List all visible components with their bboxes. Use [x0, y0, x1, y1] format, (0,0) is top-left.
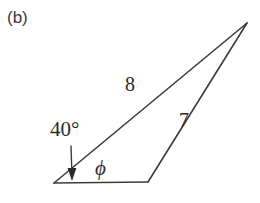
- angle-label-40-degrees: 40°: [50, 119, 79, 140]
- triangle-side-7-line: [148, 23, 247, 182]
- angle-arrow-head-icon: [68, 168, 77, 181]
- triangle-base-line: [54, 182, 148, 183]
- triangle-diagram: [0, 0, 260, 203]
- triangle-side-8-line: [54, 23, 247, 183]
- side-length-label-7: 7: [179, 110, 189, 130]
- side-length-label-8: 8: [125, 74, 135, 94]
- angle-label-phi: ϕ: [95, 158, 106, 179]
- figure-panel: (b) 8 7 40° ϕ: [0, 0, 260, 203]
- panel-label: (b): [7, 9, 28, 26]
